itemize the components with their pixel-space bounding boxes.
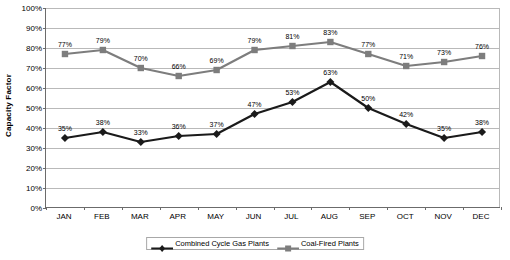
data-point-label: 79% [96, 37, 110, 44]
data-point-marker [99, 128, 107, 136]
data-point-label: 71% [399, 53, 413, 60]
data-point-label: 38% [475, 119, 489, 126]
x-tick-label: DEC [473, 212, 490, 221]
data-point-marker [175, 132, 183, 140]
data-point-label: 79% [248, 37, 262, 44]
y-tick-label: 10% [26, 184, 42, 193]
data-point-label: 50% [361, 95, 375, 102]
data-point-marker [137, 138, 145, 146]
data-point-label: 69% [210, 57, 224, 64]
data-point-label: 47% [248, 101, 262, 108]
capacity-factor-line-chart: Capacity Factor 100%90%80%70%60%50%40%30… [0, 0, 510, 260]
y-tick-label: 0% [30, 204, 42, 213]
data-point-label: 35% [437, 125, 451, 132]
data-point-marker [100, 47, 106, 53]
data-point-label: 76% [475, 43, 489, 50]
x-tick-label: MAY [207, 212, 224, 221]
legend-label-gas: Combined Cycle Gas Plants [175, 239, 269, 248]
y-tick-label: 80% [26, 44, 42, 53]
legend-item-combined-cycle-gas-plants: Combined Cycle Gas Plants [151, 239, 269, 248]
legend-label-coal: Coal-Fired Plants [301, 239, 359, 248]
data-point-label: 70% [134, 55, 148, 62]
x-tick-label: FEB [94, 212, 110, 221]
plot-area: 35%38%33%36%37%47%53%63%50%42%35%38%77%7… [45, 8, 500, 208]
y-tick-label: 90% [26, 24, 42, 33]
data-point-marker [440, 134, 448, 142]
data-point-marker [403, 63, 409, 69]
data-point-marker [327, 39, 333, 45]
legend-swatch-coal-icon [277, 239, 299, 248]
data-point-label: 42% [399, 111, 413, 118]
data-point-label: 83% [323, 29, 337, 36]
y-tick-label: 100% [22, 4, 42, 13]
x-tick-label: OCT [397, 212, 414, 221]
y-tick-label: 40% [26, 124, 42, 133]
data-point-label: 77% [58, 41, 72, 48]
series-lines [46, 8, 501, 208]
x-tick-mark [501, 207, 502, 210]
y-axis-title-label: Capacity Factor [5, 73, 14, 136]
y-tick-label: 70% [26, 64, 42, 73]
y-tick-label: 50% [26, 104, 42, 113]
data-point-label: 53% [285, 89, 299, 96]
x-tick-label: JUL [284, 212, 298, 221]
x-axis-tick-labels: JANFEBMARAPRMAYJUNJULAUGSEPOCTNOVDEC [45, 212, 500, 228]
data-point-label: 66% [172, 63, 186, 70]
data-point-label: 38% [96, 119, 110, 126]
data-point-marker [213, 130, 221, 138]
data-point-marker [213, 67, 219, 73]
x-tick-label: MAR [131, 212, 149, 221]
data-point-marker [138, 65, 144, 71]
data-point-marker [289, 43, 295, 49]
data-point-marker [251, 47, 257, 53]
data-point-label: 63% [323, 69, 337, 76]
y-axis-tick-labels: 100%90%80%70%60%50%40%30%20%10%0% [14, 8, 42, 208]
data-point-label: 81% [285, 33, 299, 40]
data-point-label: 36% [172, 123, 186, 130]
x-tick-label: SEP [359, 212, 375, 221]
data-point-marker [251, 110, 259, 118]
legend-swatch-gas-icon [151, 239, 173, 248]
data-point-marker [441, 59, 447, 65]
y-tick-label: 30% [26, 144, 42, 153]
data-point-label: 73% [437, 49, 451, 56]
data-point-marker [61, 134, 69, 142]
data-point-marker [365, 51, 371, 57]
series-line-coal [65, 42, 482, 76]
x-tick-label: JAN [56, 212, 71, 221]
data-point-marker [176, 73, 182, 79]
y-tick-label: 20% [26, 164, 42, 173]
data-point-marker [478, 128, 486, 136]
x-tick-label: NOV [434, 212, 451, 221]
data-point-label: 37% [210, 121, 224, 128]
legend-item-coal-fired-plants: Coal-Fired Plants [277, 239, 359, 248]
x-tick-label: JUN [246, 212, 262, 221]
series-line-gas [65, 82, 482, 142]
x-tick-label: APR [169, 212, 185, 221]
data-point-label: 33% [134, 129, 148, 136]
chart-legend: Combined Cycle Gas Plants Coal-Fired Pla… [146, 237, 364, 250]
data-point-marker [288, 98, 296, 106]
x-tick-label: AUG [321, 212, 338, 221]
data-point-marker [62, 51, 68, 57]
data-point-marker [402, 120, 410, 128]
data-point-label: 77% [361, 41, 375, 48]
data-point-label: 35% [58, 125, 72, 132]
data-point-marker [479, 53, 485, 59]
y-tick-label: 60% [26, 84, 42, 93]
